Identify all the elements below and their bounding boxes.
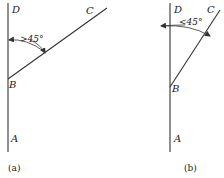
caption-b: (b) xyxy=(184,163,197,173)
angle-label: <45° xyxy=(179,17,203,27)
label-b: B xyxy=(171,83,179,94)
label-c: C xyxy=(86,5,94,16)
angle-label: >45° xyxy=(20,34,44,44)
label-d: D xyxy=(11,4,20,15)
figure-b: D C B A <45° (b) xyxy=(161,3,220,173)
label-a: A xyxy=(173,133,181,144)
label-d: D xyxy=(173,4,182,15)
diagram-canvas: D C B A >45° (a) D C B A <45° (b) xyxy=(0,0,224,178)
caption-a: (a) xyxy=(8,163,20,173)
figure-a: D C B A >45° (a) xyxy=(8,3,107,173)
angle-arc-right-arrow xyxy=(162,26,210,36)
label-c: C xyxy=(207,4,215,15)
label-b: B xyxy=(8,79,16,90)
label-a: A xyxy=(10,133,18,144)
